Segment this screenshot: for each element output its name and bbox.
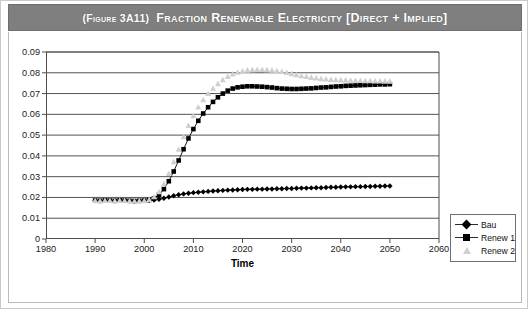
y-axis-tick-label: 0.02 bbox=[22, 192, 40, 202]
y-axis-tick-label: 0.08 bbox=[22, 68, 40, 78]
y-axis-tick-label: 0.07 bbox=[22, 89, 40, 99]
legend-item[interactable]: Renew 2 bbox=[455, 244, 511, 257]
x-axis-tick-label: 2050 bbox=[380, 244, 400, 254]
y-axis-tick-label: 0.04 bbox=[22, 151, 40, 161]
legend-marker-diamond-icon bbox=[455, 219, 478, 230]
y-axis-tick-label: 0.01 bbox=[22, 213, 40, 223]
x-axis-tick-label: 2030 bbox=[281, 244, 301, 254]
x-axis-tick-label: 1980 bbox=[36, 244, 56, 254]
y-axis-tick-label: 0.03 bbox=[22, 172, 40, 182]
data-series bbox=[46, 52, 439, 239]
x-axis-tick-label: 2040 bbox=[331, 244, 351, 254]
x-axis-label: Time bbox=[46, 258, 439, 269]
legend-label: Bau bbox=[481, 220, 496, 230]
legend-label: Renew 1 bbox=[481, 233, 515, 243]
figure-title: (Figure 3A11)Fraction Renewable Electric… bbox=[82, 11, 447, 25]
plot-area: 00.010.020.030.040.050.060.070.080.09 19… bbox=[46, 52, 439, 239]
x-axis-tick-label: 1990 bbox=[85, 244, 105, 254]
figure-page: (Figure 3A11)Fraction Renewable Electric… bbox=[0, 0, 528, 309]
legend-item[interactable]: Bau bbox=[455, 218, 511, 231]
figure-number: (Figure 3A11) bbox=[82, 12, 149, 24]
x-axis-tick-label: 2060 bbox=[429, 244, 449, 254]
chart-frame: 00.010.020.030.040.050.060.070.080.09 19… bbox=[8, 32, 522, 303]
legend-item[interactable]: Renew 1 bbox=[455, 231, 511, 244]
legend: BauRenew 1Renew 2 bbox=[450, 214, 516, 262]
figure-title-bar: (Figure 3A11)Fraction Renewable Electric… bbox=[8, 4, 522, 31]
y-axis-tick-label: 0.05 bbox=[22, 130, 40, 140]
y-axis-tick-label: 0 bbox=[35, 234, 40, 244]
y-axis-tick-label: 0.09 bbox=[22, 47, 40, 57]
legend-label: Renew 2 bbox=[481, 246, 515, 256]
x-axis-tick-label: 2000 bbox=[134, 244, 154, 254]
x-axis-tick-label: 2010 bbox=[183, 244, 203, 254]
legend-marker-square-icon bbox=[455, 232, 478, 243]
x-axis-tick-label: 2020 bbox=[232, 244, 252, 254]
y-axis-tick-label: 0.06 bbox=[22, 109, 40, 119]
figure-title-text: Fraction Renewable Electricity [Direct +… bbox=[156, 11, 447, 25]
legend-marker-triangle-icon bbox=[455, 245, 478, 256]
